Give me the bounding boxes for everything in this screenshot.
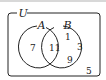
set-a-label: A bbox=[37, 19, 46, 32]
region-only-a: 7 bbox=[30, 43, 36, 53]
venn-diagram: U A B 7 11 1 3 9 5 bbox=[0, 0, 106, 80]
set-b-circle bbox=[42, 26, 82, 68]
region-only-b-9: 9 bbox=[67, 55, 73, 65]
region-a-and-b: 11 bbox=[49, 43, 60, 53]
region-only-b-1: 1 bbox=[65, 32, 71, 42]
region-outside: 5 bbox=[86, 66, 92, 76]
set-b-label: B bbox=[63, 19, 72, 32]
universe-label: U bbox=[19, 7, 29, 20]
region-only-b-3: 3 bbox=[77, 42, 83, 52]
